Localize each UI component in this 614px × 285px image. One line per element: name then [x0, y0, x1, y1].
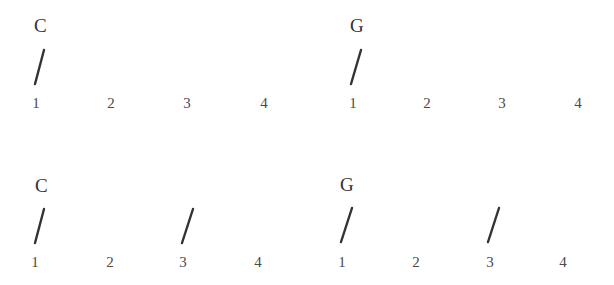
beat-number: 1: [338, 255, 346, 270]
measure-row2-g: G 1 2 3 4: [0, 0, 614, 285]
beat-number: 4: [559, 255, 567, 270]
beat-number: 3: [486, 255, 494, 270]
strum-slash-icon: [0, 0, 614, 285]
beat-number: 2: [412, 255, 420, 270]
